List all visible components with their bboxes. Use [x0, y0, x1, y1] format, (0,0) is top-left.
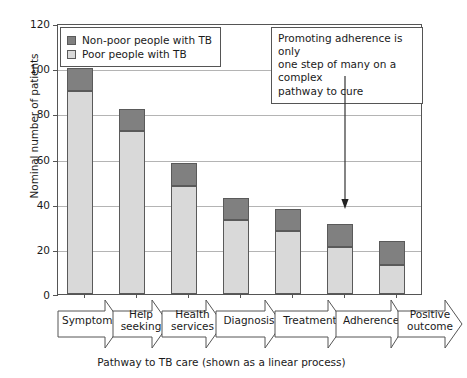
x-tick-mark: [136, 294, 137, 298]
bar-segment-poor: [171, 186, 197, 294]
chart-legend: Non-poor people with TB Poor people with…: [60, 27, 221, 67]
y-tick-mark: [53, 251, 58, 252]
pathway-step-diagnosis: Diagnosis: [215, 299, 283, 349]
legend-label: Non-poor people with TB: [82, 34, 212, 46]
y-tick-label: 40: [10, 199, 50, 211]
y-tick-mark: [53, 161, 58, 162]
pathway-chevrons: Symptoms Help seeking Health services: [57, 299, 443, 349]
x-tick-mark: [188, 294, 189, 298]
legend-item-poor: Poor people with TB: [67, 48, 212, 60]
legend-swatch-poor-icon: [67, 50, 76, 59]
annotation-arrow-icon: [341, 76, 349, 209]
gridline: [58, 115, 421, 116]
x-tick-mark: [344, 294, 345, 298]
bar-segment-non-poor: [379, 241, 405, 265]
bar-segment-non-poor: [327, 224, 353, 247]
legend-swatch-non-poor-icon: [67, 36, 76, 45]
y-tick-label: 60: [10, 154, 50, 166]
y-tick-mark: [53, 25, 58, 26]
bar-segment-non-poor: [223, 198, 249, 220]
bar-segment-poor: [119, 131, 145, 294]
y-tick-mark: [53, 115, 58, 116]
bar-segment-poor: [379, 265, 405, 294]
x-tick-mark: [240, 294, 241, 298]
bar-help-seeking: [119, 109, 145, 294]
y-tick-label: 120: [10, 18, 50, 30]
legend-label: Poor people with TB: [82, 48, 187, 60]
y-tick-label: 20: [10, 244, 50, 256]
x-tick-mark: [84, 294, 85, 298]
bar-segment-non-poor: [171, 163, 197, 186]
bar-diagnosis: [223, 198, 249, 294]
y-tick-label: 0: [10, 289, 50, 301]
bar-segment-non-poor: [275, 209, 301, 231]
bar-health-services: [171, 163, 197, 294]
bar-treatment: [275, 209, 301, 294]
bar-segment-non-poor: [67, 68, 93, 91]
bar-symptoms: [67, 68, 93, 294]
callout-line-1: Promoting adherence is only: [278, 32, 417, 58]
x-tick-mark: [396, 294, 397, 298]
bar-positive-outcome: [379, 241, 405, 294]
bar-segment-poor: [67, 91, 93, 294]
x-tick-mark: [292, 294, 293, 298]
bar-segment-poor: [275, 231, 301, 294]
bar-segment-non-poor: [119, 109, 145, 132]
y-tick-mark: [53, 295, 58, 296]
legend-item-non-poor: Non-poor people with TB: [67, 34, 212, 46]
y-tick-mark: [53, 206, 58, 207]
x-axis-caption: Pathway to TB care (shown as a linear pr…: [0, 356, 443, 368]
bar-adherence: [327, 224, 353, 294]
bar-segment-poor: [327, 247, 353, 294]
y-tick-label: 100: [10, 63, 50, 75]
gridline: [58, 161, 421, 162]
pathway-step-positive-outcome: Positive outcome: [397, 299, 463, 349]
bar-segment-poor: [223, 220, 249, 295]
y-tick-label: 80: [10, 108, 50, 120]
y-tick-mark: [53, 70, 58, 71]
